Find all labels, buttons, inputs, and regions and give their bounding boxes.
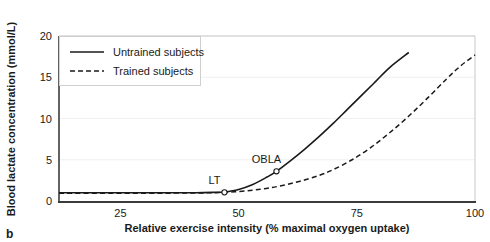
figure-panel: 05101520 255075100 LTOBLA Untrained subj… — [0, 0, 490, 242]
annotation-label-lt: LT — [208, 174, 220, 186]
x-tick-label-25: 25 — [114, 207, 126, 219]
x-tick-labels: 255075100 — [114, 207, 484, 219]
y-tick-label-10: 10 — [40, 113, 52, 125]
legend-box — [60, 37, 201, 86]
legend-label-untrained: Untrained subjects — [113, 46, 205, 58]
panel-label: b — [6, 227, 13, 241]
y-tick-labels: 05101520 — [40, 30, 52, 207]
legend-label-trained: Trained subjects — [113, 65, 194, 77]
y-tick-label-0: 0 — [46, 195, 52, 207]
x-tick-label-100: 100 — [466, 207, 484, 219]
y-axis-title: Blood lactate concentration (mmol/L) — [5, 21, 17, 216]
marker-lt — [222, 190, 227, 195]
y-tick-label-15: 15 — [40, 71, 52, 83]
x-axis-title: Relative exercise intensity (% maximal o… — [125, 222, 410, 234]
x-tick-label-75: 75 — [351, 207, 363, 219]
x-tick-label-50: 50 — [233, 207, 245, 219]
blood-lactate-chart: 05101520 255075100 LTOBLA Untrained subj… — [0, 0, 490, 242]
annotation-label-obla: OBLA — [252, 153, 282, 165]
y-tick-label-5: 5 — [46, 154, 52, 166]
chart-legend: Untrained subjects Trained subjects — [60, 37, 205, 86]
marker-obla — [274, 169, 279, 174]
y-tick-label-20: 20 — [40, 30, 52, 42]
